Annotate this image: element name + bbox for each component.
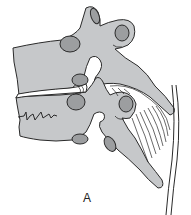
figure-label: A <box>80 191 94 205</box>
lower-oval-3 <box>72 134 88 144</box>
upper-oval-1 <box>60 36 80 52</box>
vertebrae-diagram <box>0 0 191 215</box>
upper-oval-2 <box>115 25 129 41</box>
lower-oval-1 <box>67 94 85 110</box>
lower-oval-2 <box>119 96 133 112</box>
